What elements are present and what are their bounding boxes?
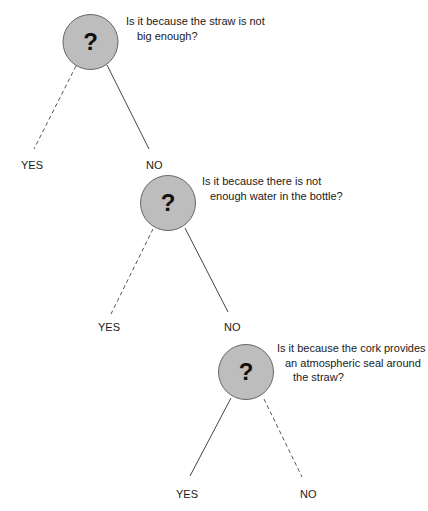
q3-question-line-1: Is it because the cork provides xyxy=(277,341,426,356)
q3-no-label: NO xyxy=(300,487,317,501)
q1-yes-branch-dashed xyxy=(34,66,76,149)
q1-yes-label: YES xyxy=(21,158,43,172)
q3-yes-branch-solid xyxy=(190,398,231,476)
q1-no-branch-solid xyxy=(107,65,149,149)
q2-question-line-1: Is it because there is not xyxy=(202,174,343,189)
q3-question-mark-icon: ? xyxy=(218,344,274,400)
q3-no-branch-dashed xyxy=(264,399,302,477)
q1-no-label: NO xyxy=(146,158,163,172)
q1-question-line-2: big enough? xyxy=(126,29,265,44)
q3-question-line-3: the straw? xyxy=(277,370,426,385)
q2-question-line-2: enough water in the bottle? xyxy=(202,189,343,204)
q3-question-text: Is it because the cork provides an atmos… xyxy=(277,341,426,385)
q3-question-line-2: an atmospheric seal around xyxy=(277,356,426,371)
q2-yes-label: YES xyxy=(98,320,120,334)
q2-no-branch-solid xyxy=(185,228,228,312)
q3-yes-label: YES xyxy=(176,487,198,501)
q1-question-line-1: Is it because the straw is not xyxy=(126,14,265,29)
q2-no-label: NO xyxy=(224,320,241,334)
q2-question-text: Is it because there is not enough water … xyxy=(202,174,343,203)
q2-question-mark-icon: ? xyxy=(140,175,196,231)
q2-yes-branch-dashed xyxy=(111,229,153,314)
decision-tree-graphic xyxy=(0,0,428,511)
q1-question-text: Is it because the straw is not big enoug… xyxy=(126,14,265,43)
q1-question-mark-icon: ? xyxy=(63,14,119,70)
